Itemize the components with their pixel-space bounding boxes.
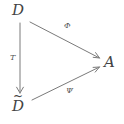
node-label-d: D [12, 3, 24, 18]
node-label-a: A [104, 55, 115, 70]
node-a-text: A [104, 53, 115, 71]
tilde-stack: ~ D [12, 99, 24, 114]
commutative-diagram: D ~ D A Φ Ψ T [0, 0, 124, 124]
arrow-label-phi: Φ [64, 22, 71, 30]
tilde-accent-icon: ~ [13, 90, 23, 102]
arrow-psi-dtilde-to-a [32, 67, 100, 100]
arrow-t-d-to-dtilde [17, 23, 24, 93]
node-d-text: D [12, 1, 24, 19]
arrow-label-t: T [10, 54, 15, 62]
arrow-label-psi: Ψ [66, 87, 73, 95]
arrow-psi-shaft [32, 68, 99, 101]
node-label-d-tilde: ~ D [12, 99, 24, 114]
